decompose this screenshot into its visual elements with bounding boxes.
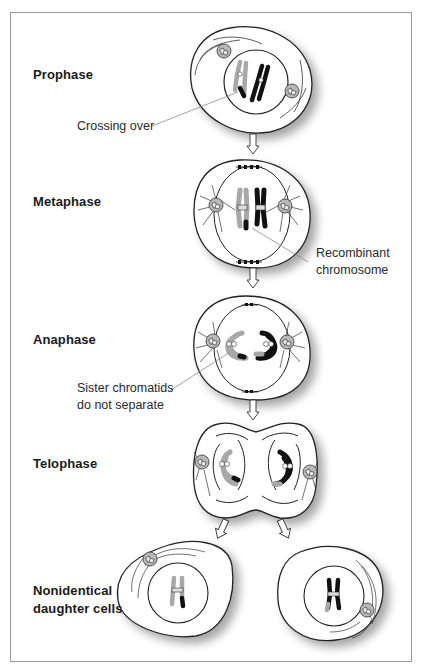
callout-recombinant-line1: Recombinant [316,245,390,262]
stage-label-anaphase: Anaphase [33,331,96,348]
stage-label-telophase: Telophase [33,455,97,472]
daughter-cell-left [117,542,232,637]
arrow-down-right-icon [275,517,294,540]
centrosome-icon [195,455,209,469]
callout-recombinant-line2: chromosome [316,262,388,279]
centrosome-icon [278,199,292,213]
arrow-down-icon [247,268,259,288]
stage-label-prophase: Prophase [33,66,93,83]
centrosome-icon [280,335,294,349]
telophase-cell [194,423,318,518]
arrow-down-left-icon [212,517,231,540]
arrow-down-icon [247,400,259,420]
centrosome-icon [360,603,374,617]
stage-label-metaphase: Metaphase [33,193,101,210]
anaphase-cell [168,296,310,400]
stage-label-daughters-line2: daughter cells [33,600,123,617]
callout-sister-line2: do not separate [77,397,164,414]
metaphase-cell [194,160,310,268]
centrosome-icon [217,44,231,58]
stage-label-daughters-line1: Nonidentical [33,582,112,599]
centrosome-icon [143,552,157,566]
arrow-down-icon [247,134,259,154]
prophase-cell [152,27,312,133]
centrosome-icon [206,334,220,348]
centrosome-icon [209,198,223,212]
daughter-cell-right [278,547,383,641]
callout-crossing-over: Crossing over [77,118,154,135]
centrosome-icon [285,84,299,98]
centrosome-icon [303,465,317,479]
callout-sister-line1: Sister chromatids [77,380,174,397]
